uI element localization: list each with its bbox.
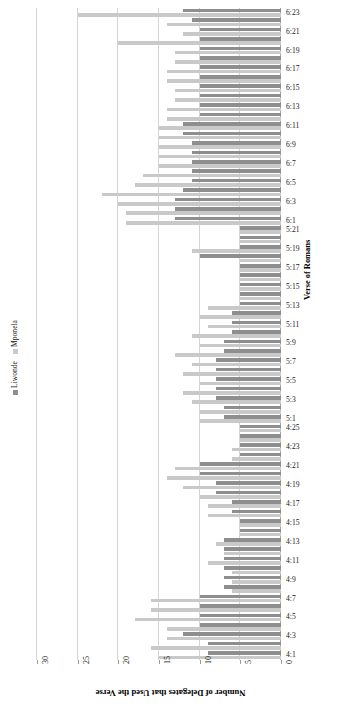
category-label-5-15: 5:15	[286, 283, 300, 291]
legend-swatch-liwonde	[13, 390, 18, 395]
bar-mponela-5-20	[240, 240, 281, 244]
bar-liwonde-5-12	[232, 311, 281, 315]
bar-liwonde-6-20	[200, 37, 281, 41]
bar-mponela-4-11	[208, 561, 281, 565]
bar-liwonde-6-14	[200, 94, 281, 98]
category-label-4-5: 4:5	[286, 613, 296, 621]
bar-liwonde-4-8	[224, 585, 281, 589]
bar-liwonde-6-1	[175, 217, 281, 221]
bar-mponela-4-16	[208, 514, 281, 518]
tick-mark-10	[200, 660, 201, 664]
bar-mponela-4-5	[135, 618, 281, 622]
bar-liwonde-4-16	[232, 510, 281, 514]
bar-liwonde-6-16	[200, 75, 281, 79]
bar-mponela-4-1	[159, 656, 281, 660]
bar-mponela-6-23	[78, 13, 281, 17]
bar-mponela-5-11	[208, 325, 281, 329]
bar-mponela-5-15	[240, 287, 281, 291]
x-axis-tick-labels: 302520151050	[0, 662, 341, 688]
bar-liwonde-4-5	[200, 614, 281, 618]
chart-legend: LiwondeMponela	[10, 320, 19, 395]
bar-mponela-5-6	[183, 372, 281, 376]
bar-liwonde-4-21	[200, 462, 281, 466]
bar-mponela-4-6	[151, 608, 281, 612]
bar-mponela-6-1	[126, 221, 281, 225]
bar-liwonde-4-10	[224, 566, 281, 570]
bar-liwonde-6-11	[183, 122, 281, 126]
x-tick-label-25: 25	[82, 656, 91, 664]
bar-liwonde-5-20	[240, 236, 281, 240]
bar-mponela-5-4	[183, 391, 281, 395]
bar-liwonde-5-10	[232, 330, 281, 334]
bar-mponela-5-17	[240, 268, 281, 272]
x-tick-label-5: 5	[244, 660, 253, 664]
bar-liwonde-5-3	[216, 396, 281, 400]
bar-liwonde-4-13	[224, 538, 281, 542]
category-label-6-17: 6:17	[286, 65, 300, 73]
bar-mponela-4-17	[208, 504, 281, 508]
category-label-6-5: 6:5	[286, 179, 296, 187]
bar-liwonde-5-16	[240, 273, 281, 277]
bar-mponela-4-22	[232, 457, 281, 461]
bar-mponela-6-2	[126, 211, 281, 215]
category-label-6-7: 6:7	[286, 160, 296, 168]
bar-mponela-6-3	[118, 202, 281, 206]
category-label-4-23: 4:23	[286, 443, 300, 451]
bar-liwonde-6-18	[200, 56, 281, 60]
bar-liwonde-5-5	[216, 377, 281, 381]
bar-mponela-6-10	[159, 136, 281, 140]
bar-mponela-5-7	[192, 363, 281, 367]
bar-mponela-4-13	[216, 542, 281, 546]
bar-mponela-6-19	[175, 51, 281, 55]
bar-liwonde-4-17	[232, 500, 281, 504]
bar-mponela-6-14	[175, 98, 281, 102]
category-axis-labels: 6:236:216:196:176:156:136:116:96:76:56:3…	[284, 8, 341, 660]
bar-liwonde-5-11	[232, 321, 281, 325]
bar-liwonde-4-19	[216, 481, 281, 485]
category-label-6-23: 6:23	[286, 9, 300, 17]
bar-mponela-6-13	[167, 108, 281, 112]
category-label-4-13: 4:13	[286, 538, 300, 546]
category-label-5-19: 5:19	[286, 245, 300, 253]
gridline-15	[158, 8, 159, 660]
category-label-5-21: 5:21	[286, 226, 300, 234]
bar-liwonde-4-2	[208, 642, 281, 646]
bar-mponela-5-18	[240, 259, 281, 263]
category-label-5-17: 5:17	[286, 264, 300, 272]
bar-liwonde-4-14	[240, 529, 281, 533]
tick-mark-5	[240, 660, 241, 664]
category-label-6-11: 6:11	[286, 122, 299, 130]
category-label-4-11: 4:11	[286, 557, 299, 565]
bar-mponela-5-5	[200, 382, 281, 386]
bar-liwonde-6-4	[183, 188, 281, 192]
bar-mponela-6-20	[118, 41, 281, 45]
bar-liwonde-6-6	[192, 169, 281, 173]
bar-mponela-4-18	[200, 495, 281, 499]
bar-liwonde-5-21	[240, 226, 281, 230]
bar-mponela-4-3	[167, 637, 281, 641]
bar-mponela-5-16	[240, 278, 281, 282]
bar-mponela-6-18	[175, 60, 281, 64]
category-label-5-7: 5:7	[286, 358, 296, 366]
bar-mponela-6-9	[159, 145, 281, 149]
bar-liwonde-6-7	[192, 160, 281, 164]
bar-liwonde-4-1	[208, 651, 281, 655]
legend-label-liwonde: Liwonde	[10, 361, 19, 388]
bar-mponela-5-2	[200, 410, 281, 414]
bar-liwonde-5-2	[224, 406, 281, 410]
chart-container: 6:236:216:196:176:156:136:116:96:76:56:3…	[0, 0, 341, 711]
bar-liwonde-4-11	[224, 557, 281, 561]
category-label-6-15: 6:15	[286, 84, 300, 92]
bar-mponela-6-15	[175, 89, 281, 93]
category-label-4-9: 4:9	[286, 576, 296, 584]
bar-liwonde-6-10	[183, 132, 281, 136]
bar-liwonde-6-9	[192, 141, 281, 145]
bar-mponela-4-19	[183, 486, 281, 490]
category-label-4-25: 4:25	[286, 424, 300, 432]
bar-mponela-5-1	[200, 419, 281, 423]
bar-mponela-4-15	[240, 523, 281, 527]
bar-liwonde-5-17	[240, 264, 281, 268]
bar-liwonde-4-24	[240, 434, 281, 438]
bar-mponela-4-14	[240, 533, 281, 537]
bar-liwonde-5-19	[240, 245, 281, 249]
